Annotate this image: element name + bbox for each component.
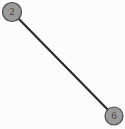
node-6[interactable]	[105, 107, 123, 125]
node-2[interactable]	[3, 3, 22, 22]
edge-2-6[interactable]	[12, 12, 114, 116]
graph-figure: 2 6	[0, 0, 125, 129]
graph-canvas	[0, 0, 125, 129]
edge-layer	[12, 12, 114, 116]
